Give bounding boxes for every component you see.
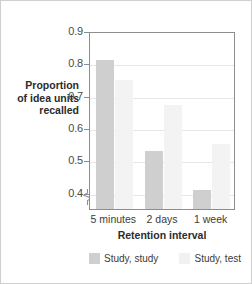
x-axis-title: Retention interval (89, 229, 235, 241)
y-tick-label: 0.7 (68, 90, 83, 102)
plot-area (89, 32, 235, 210)
x-category-label: 1 week (171, 213, 251, 225)
bar (145, 151, 163, 209)
y-tick-label: 0.8 (68, 57, 83, 69)
chart-legend: Study, studyStudy, test (89, 253, 241, 264)
legend-label: Study, test (194, 253, 241, 264)
legend-item[interactable]: Study, test (179, 253, 241, 264)
bar (96, 60, 114, 209)
legend-label: Study, study (104, 253, 158, 264)
y-tick-label: 0.6 (68, 122, 83, 134)
y-axis-title-line-3: recalled (7, 104, 79, 117)
y-tick-label: 0.4 (68, 187, 83, 199)
y-tick-label: 0.5 (68, 154, 83, 166)
bar-chart-figure: Proportion of idea units recalled 0.40.5… (0, 0, 252, 284)
legend-item[interactable]: Study, study (89, 253, 158, 264)
bar (193, 190, 211, 209)
y-tick-label: 0.9 (68, 25, 83, 37)
bar (212, 144, 230, 209)
bar (115, 80, 133, 209)
legend-swatch-icon (179, 253, 190, 264)
legend-swatch-icon (89, 253, 100, 264)
bar (164, 105, 182, 209)
